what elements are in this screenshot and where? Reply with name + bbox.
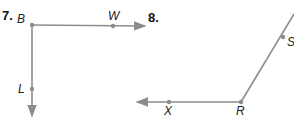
label-s: S — [287, 35, 294, 49]
label-r: R — [236, 104, 245, 118]
angle-srx — [137, 14, 294, 104]
label-b: B — [17, 12, 25, 26]
ray-rs — [241, 14, 294, 102]
label-x: X — [164, 104, 172, 118]
point-s — [281, 35, 285, 39]
problem-number-8: 8. — [148, 10, 159, 25]
angles-figure — [0, 0, 294, 119]
angle-wbl — [30, 23, 145, 116]
label-l: L — [18, 82, 25, 96]
ray-bw — [32, 25, 145, 26]
point-w — [111, 24, 115, 28]
problem-number-7: 7. — [2, 8, 13, 23]
label-w: W — [108, 9, 119, 23]
point-b — [30, 23, 34, 27]
point-l — [30, 87, 34, 91]
